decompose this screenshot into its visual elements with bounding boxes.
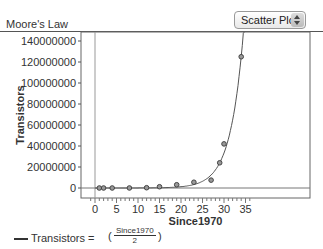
formula-denominator: 2 [114,236,156,245]
data-point[interactable] [174,182,179,187]
data-point[interactable] [157,184,162,189]
y-tick-label: 100000000 [21,77,76,89]
data-point[interactable] [144,185,149,190]
fit-formula: ( Since1970 2 ) [108,226,162,245]
x-tick-label: 15 [153,203,165,215]
data-point[interactable] [217,161,222,166]
fit-curve [95,32,244,188]
data-point[interactable] [101,186,106,191]
legend-line-icon [14,238,28,240]
x-axis-label: Since1970 [169,215,223,225]
data-point[interactable] [110,186,115,191]
data-point[interactable] [127,186,132,191]
legend-label: Transistors = [31,232,94,244]
y-tick-label: 60000000 [27,119,76,131]
x-tick-label: 5 [113,203,119,215]
x-tick-label: 0 [92,203,98,215]
y-axis-label: Transistors [14,85,26,144]
y-tick-label: 140000000 [21,35,76,47]
y-tick-label: 40000000 [27,140,76,152]
plot-frame [81,32,310,198]
legend: Transistors = [14,232,94,244]
x-tick-label: 30 [218,203,230,215]
x-tick-label: 10 [132,203,144,215]
data-point[interactable] [192,180,197,185]
y-tick-label: 0 [70,182,76,194]
y-tick-label: 80000000 [27,98,76,110]
x-tick-label: 20 [175,203,187,215]
data-point[interactable] [239,54,244,59]
scatter-plot: 0200000004000000060000000800000001000000… [0,0,323,225]
data-point[interactable] [209,178,214,183]
data-point[interactable] [222,142,227,147]
x-tick-label: 25 [196,203,208,215]
y-tick-label: 120000000 [21,56,76,68]
formula-numerator: Since1970 [114,226,156,236]
y-tick-label: 20000000 [27,161,76,173]
x-tick-label: 35 [239,203,251,215]
